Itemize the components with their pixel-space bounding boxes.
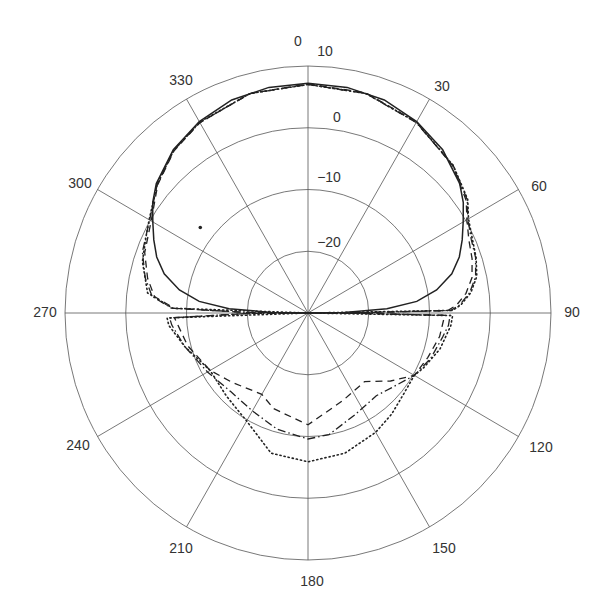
angle-tick-label: 300 (68, 175, 91, 191)
series-dotted (142, 85, 476, 462)
grid-spoke (308, 99, 430, 313)
grid-spoke (98, 313, 308, 437)
angle-tick-label: 30 (434, 78, 450, 94)
angle-tick-label: 120 (529, 439, 552, 455)
series-dash-dot (142, 85, 475, 440)
angle-tick-label: 150 (432, 540, 455, 556)
data-series (142, 83, 476, 462)
grid-spoke (187, 313, 309, 527)
polar-chart (0, 0, 604, 611)
angle-tick-label: 180 (300, 573, 323, 589)
grid-spoke (187, 99, 309, 313)
angle-tick-label: 240 (66, 437, 89, 453)
radial-tick-label: −10 (317, 169, 341, 185)
radial-tick-label: 10 (317, 43, 333, 59)
grid-spoke (98, 190, 308, 314)
angle-tick-label: 330 (169, 72, 192, 88)
angle-tick-label: 270 (33, 304, 56, 320)
angle-tick-label: 210 (169, 540, 192, 556)
series-dashed (145, 84, 472, 425)
grid-spoke (308, 190, 518, 314)
marker-dot (198, 226, 202, 230)
grid-spoke (308, 313, 518, 437)
angle-tick-label: 90 (564, 304, 580, 320)
radial-tick-label: 0 (333, 109, 341, 125)
grid-spoke (308, 313, 430, 527)
radial-tick-label: −20 (317, 234, 341, 250)
angle-tick-label: 0 (294, 33, 302, 49)
angle-tick-label: 60 (531, 178, 547, 194)
